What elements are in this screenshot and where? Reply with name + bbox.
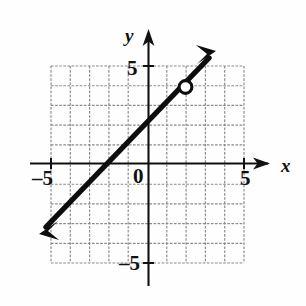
open-circle-point xyxy=(179,81,192,94)
coordinate-plane-svg xyxy=(0,0,306,306)
tick-label-x-positive-5: 5 xyxy=(240,168,251,189)
y-axis-label: y xyxy=(125,26,133,45)
axes xyxy=(30,33,268,286)
tick-label-y-negative-5: –5 xyxy=(119,253,140,274)
x-axis-label: x xyxy=(281,156,291,175)
tick-label-y-positive-5: 5 xyxy=(127,58,138,79)
graph-figure: y x 5 0 –5 5 –5 xyxy=(0,0,306,306)
tick-label-origin: 0 xyxy=(133,166,144,187)
tick-label-x-negative-5: –5 xyxy=(32,168,53,189)
